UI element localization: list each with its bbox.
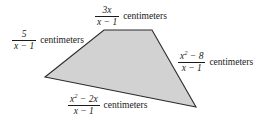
fraction-right-numerator: x2 − 8 — [178, 52, 205, 62]
fraction-right-denominator: x − 1 — [180, 63, 204, 73]
side-label-right: x2 − 8 x − 1 centimeters — [176, 52, 253, 73]
fraction-top-numerator: 3x — [101, 6, 114, 16]
fraction-right: x2 − 8 x − 1 — [178, 52, 205, 73]
fraction-left-numerator: 5 — [20, 30, 29, 40]
fraction-bottom-numerator-exponent: 2 — [74, 92, 77, 99]
fraction-left: 5 x − 1 — [12, 30, 36, 51]
fraction-top: 3x x − 1 — [95, 6, 119, 27]
fraction-bottom-numerator: x2 − 2x — [68, 95, 100, 105]
fraction-bottom: x2 − 2x x − 1 — [68, 95, 100, 116]
unit-right: centimeters — [209, 58, 253, 68]
unit-left: centimeters — [40, 36, 84, 46]
side-label-left: 5 x − 1 centimeters — [10, 30, 84, 51]
side-label-top: 3x x − 1 centimeters — [93, 6, 167, 27]
unit-top: centimeters — [123, 12, 167, 22]
unit-bottom: centimeters — [104, 101, 148, 111]
fraction-top-denominator: x − 1 — [95, 17, 119, 27]
fraction-right-numerator-exponent: 2 — [184, 49, 187, 56]
fraction-right-numerator-rest: − 8 — [190, 51, 204, 61]
geometry-figure: 3x x − 1 centimeters 5 x − 1 centimeters… — [0, 0, 271, 124]
fraction-bottom-denominator: x − 1 — [72, 106, 96, 116]
fraction-left-denominator: x − 1 — [12, 41, 36, 51]
side-label-bottom: x2 − 2x x − 1 centimeters — [66, 95, 147, 116]
fraction-bottom-numerator-rest: − 2x — [80, 94, 98, 104]
